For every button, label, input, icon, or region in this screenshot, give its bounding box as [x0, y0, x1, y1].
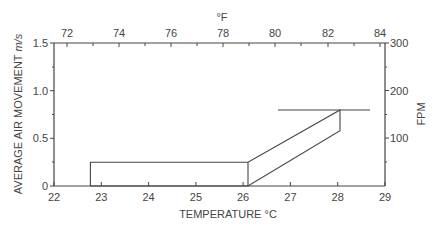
x-tick: 29	[379, 191, 391, 203]
top-axis-title: °F	[216, 11, 227, 23]
bottom-tick-labels: 22 23 24 25 26 27 28 29	[48, 191, 391, 203]
x-tick: 22	[48, 191, 60, 203]
y-tick: 1.5	[33, 37, 48, 49]
y-axis-title: AVERAGE AIR MOVEMENT m/s	[12, 33, 24, 194]
top-tick: 82	[322, 27, 334, 39]
top-tick-labels: 72 74 76 78 80 82 84	[61, 27, 386, 39]
right-tick-labels: 100 200 300	[390, 37, 408, 144]
left-tick-labels: 0 0.5 1.0 1.5	[33, 37, 48, 192]
x-tick: 23	[95, 191, 107, 203]
right-tick: 300	[390, 37, 408, 49]
x-tick: 24	[142, 191, 154, 203]
axes	[54, 43, 385, 186]
x-tick: 27	[284, 191, 296, 203]
right-tick: 100	[390, 132, 408, 144]
x-tick: 28	[332, 191, 344, 203]
x-tick: 26	[237, 191, 249, 203]
y-tick: 0	[42, 180, 48, 192]
top-tick: 78	[217, 27, 229, 39]
top-tick: 76	[165, 27, 177, 39]
right-axis-title: FPM	[415, 102, 427, 125]
y-tick: 0.5	[33, 132, 48, 144]
top-tick: 80	[269, 27, 281, 39]
comfort-zone-outline	[90, 110, 340, 186]
data-lines	[90, 110, 370, 186]
top-tick: 74	[113, 27, 125, 39]
chart-canvas: 22 23 24 25 26 27 28 29 TEMPERATURE °C 7…	[0, 0, 434, 231]
top-tick: 84	[374, 27, 386, 39]
y-tick: 1.0	[33, 85, 48, 97]
x-tick: 25	[190, 191, 202, 203]
right-tick: 200	[390, 85, 408, 97]
top-tick: 72	[61, 27, 73, 39]
x-axis-title: TEMPERATURE °C	[179, 208, 277, 220]
